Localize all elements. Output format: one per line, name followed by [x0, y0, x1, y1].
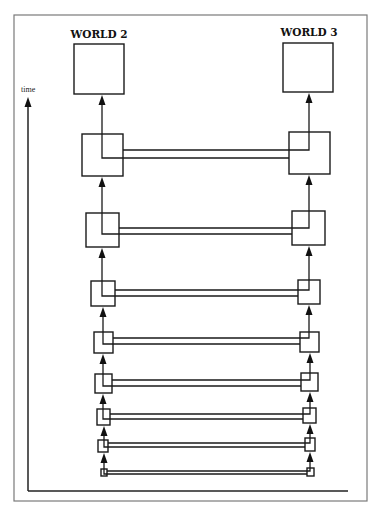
- world-2-label: WORLD 2: [69, 28, 127, 40]
- arrow-up-icon: [100, 307, 107, 317]
- world-2-state-box: [91, 281, 115, 306]
- arrow-up-icon: [306, 305, 313, 315]
- world-3-timeline: [119, 184, 309, 228]
- arrow-up-icon: [307, 424, 314, 434]
- world-3-timeline: [108, 432, 310, 443]
- arrow-up-icon: [99, 248, 106, 258]
- world-3-timeline: [113, 314, 309, 338]
- world-2-box: [74, 44, 124, 94]
- level-5: [95, 353, 318, 393]
- arrow-up-icon: [307, 452, 314, 462]
- arrow-up-icon: [101, 426, 108, 436]
- arrow-up-icon: [101, 453, 108, 463]
- level-2: [86, 175, 325, 247]
- time-axis: time: [21, 85, 348, 491]
- world-3-timeline: [107, 460, 310, 471]
- world-3-timeline: [110, 401, 310, 414]
- level-3: [91, 246, 320, 306]
- world-3-timeline: [112, 362, 310, 380]
- level-1: [82, 93, 330, 176]
- arrow-up-icon: [306, 93, 313, 103]
- level-6: [97, 392, 316, 425]
- level-8: [101, 452, 315, 476]
- world-lines-diagram: time WORLD 2 WORLD 3: [0, 0, 382, 517]
- arrow-up-icon: [99, 177, 106, 187]
- figure-frame: [14, 15, 367, 501]
- world-2-state-box: [98, 440, 108, 452]
- arrow-up-icon: [306, 175, 313, 185]
- arrow-up-icon: [307, 392, 314, 402]
- world-2-timeline: [103, 363, 301, 386]
- arrow-up-icon: [306, 246, 313, 256]
- world-2-timeline: [103, 403, 303, 419]
- world-3-label: WORLD 3: [279, 26, 337, 38]
- level-7: [98, 424, 315, 452]
- world-3-timeline: [123, 102, 309, 150]
- arrow-up-icon: [100, 354, 107, 364]
- world-2-timeline: [104, 434, 305, 447]
- world-2-timeline: [104, 461, 307, 474]
- arrow-up-icon: [99, 95, 106, 105]
- time-axis-label: time: [21, 85, 36, 94]
- level-4: [94, 305, 319, 353]
- world-2-timeline: [102, 186, 292, 234]
- world-3-timeline: [115, 255, 309, 290]
- time-axis-arrow-icon: [25, 97, 32, 107]
- arrow-up-icon: [307, 353, 314, 363]
- world-2-timeline: [103, 316, 300, 344]
- arrow-up-icon: [100, 394, 107, 404]
- world-3-box: [283, 43, 333, 92]
